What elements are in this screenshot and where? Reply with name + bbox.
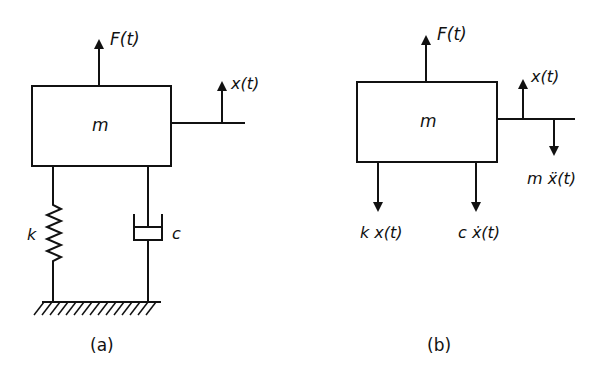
- diagram-canvas: m F(t) x(t) k c (a): [0, 0, 605, 369]
- force-label: F(t): [437, 24, 467, 44]
- force-label: F(t): [110, 29, 140, 49]
- caption-b: (b): [427, 335, 451, 355]
- spring: [47, 166, 61, 302]
- figure-a: m F(t) x(t) k c (a): [27, 29, 259, 355]
- displacement-label: x(t): [530, 67, 559, 86]
- ground-hatch: [34, 302, 156, 315]
- spring-label: k: [27, 225, 37, 244]
- damper-label: c: [172, 224, 181, 243]
- damper-force-label: c ẋ(t): [458, 223, 500, 242]
- figure-b: m F(t) x(t) m ẍ(t) k x(t) c ẋ(t) (b): [357, 24, 576, 355]
- inertia-label: m ẍ(t): [527, 169, 576, 188]
- spring-force-label: k x(t): [360, 223, 403, 242]
- mass-label: m: [420, 111, 437, 131]
- mass-label: m: [92, 115, 109, 135]
- caption-a: (a): [90, 335, 114, 355]
- displacement-label: x(t): [230, 74, 259, 93]
